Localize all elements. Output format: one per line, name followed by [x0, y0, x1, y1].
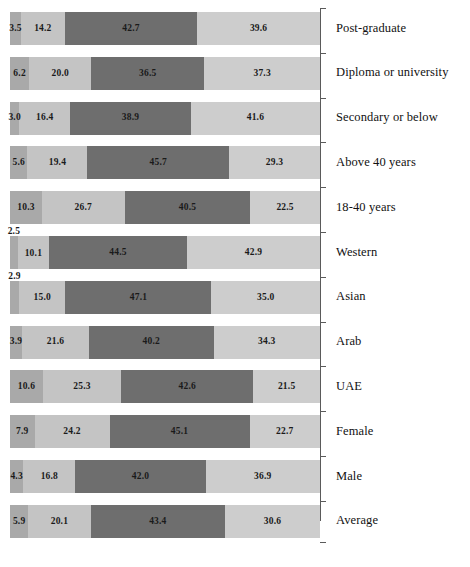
bar-segment: 6.2 [10, 57, 29, 90]
bar-segment: 15.0 [19, 281, 66, 314]
bar-segment-value: 3.0 [8, 113, 20, 123]
bar-track: 4.316.842.036.9 [10, 460, 320, 493]
stacked-bar-chart: 3.514.242.739.6Post-graduate6.220.036.53… [0, 0, 470, 567]
axis-tick [320, 322, 326, 323]
bar-segment: 45.1 [110, 415, 250, 448]
bar-segment-value: 26.7 [75, 203, 92, 213]
bar-segment-value: 14.2 [34, 24, 51, 34]
bar-segment-value: 2.9 [8, 272, 20, 282]
bar-segment: 3.9 [10, 326, 22, 359]
bar-segment: 3.5 [10, 12, 21, 45]
bar-segment-value: 20.1 [51, 517, 68, 527]
bar-segment: 10.3 [10, 191, 42, 224]
bar-row: 3.921.640.234.3 [10, 326, 320, 359]
bar-row: 3.016.438.941.6 [10, 102, 320, 135]
bar-segment-value: 2.5 [8, 227, 20, 237]
plot-area: 3.514.242.739.6Post-graduate6.220.036.53… [0, 0, 470, 567]
bar-segment: 37.3 [204, 57, 320, 90]
bar-segment: 39.6 [197, 12, 320, 45]
bar-segment-value: 4.3 [10, 472, 22, 482]
bar-segment: 30.6 [225, 505, 320, 538]
bar-segment-value: 10.1 [25, 249, 42, 259]
bar-segment-value: 36.9 [254, 472, 271, 482]
bar-segment: 7.9 [10, 415, 35, 448]
bar-segment: 14.2 [21, 12, 65, 45]
bar-segment-value: 40.5 [179, 203, 196, 213]
bar-segment-value: 15.0 [34, 293, 51, 303]
bar-segment: 25.3 [43, 370, 121, 403]
bar-segment: 20.1 [28, 505, 90, 538]
axis-tick [320, 456, 326, 457]
bar-row: 7.924.245.122.7 [10, 415, 320, 448]
bar-segment-value: 47.1 [130, 293, 147, 303]
bar-segment-value: 6.2 [13, 69, 25, 79]
bar-segment: 10.6 [10, 370, 43, 403]
bar-segment: 21.5 [253, 370, 320, 403]
bar-segment-value: 30.6 [264, 517, 281, 527]
bar-segment-value: 5.6 [12, 158, 24, 168]
bar-segment-value: 22.7 [276, 427, 293, 437]
bar-segment: 36.9 [206, 460, 320, 493]
axis-tick [320, 53, 326, 54]
bar-segment: 42.9 [187, 236, 320, 269]
category-label: Average [336, 513, 378, 528]
bar-segment-value: 29.3 [266, 158, 283, 168]
axis-tick [320, 277, 326, 278]
bar-segment-value: 20.0 [52, 69, 69, 79]
bar-segment: 35.0 [211, 281, 320, 314]
axis-tick [320, 366, 326, 367]
bar-track: 3.921.640.234.3 [10, 326, 320, 359]
category-label: Secondary or below [336, 110, 438, 125]
bar-segment: 42.7 [65, 12, 197, 45]
bar-row: 2.915.047.135.0 [10, 281, 320, 314]
bar-segment-value: 42.7 [122, 24, 139, 34]
bar-segment-value: 44.5 [109, 248, 126, 258]
bar-segment-value: 7.9 [16, 427, 28, 437]
bar-track: 7.924.245.122.7 [10, 415, 320, 448]
bar-segment-value: 19.4 [49, 158, 66, 168]
bar-segment-value: 10.3 [17, 203, 34, 213]
bar-row: 6.220.036.537.3 [10, 57, 320, 90]
bar-segment-value: 43.4 [149, 517, 166, 527]
category-label: Western [336, 245, 377, 260]
bar-track: 5.920.143.430.6 [10, 505, 320, 538]
axis-tick [320, 411, 326, 412]
category-axis-line [320, 8, 321, 521]
bar-segment-value: 5.9 [13, 517, 25, 527]
bar-row: 10.326.740.522.5 [10, 191, 320, 224]
bar-segment-value: 37.3 [253, 69, 270, 79]
bar-segment-value: 39.6 [250, 24, 267, 34]
bar-segment: 34.3 [214, 326, 320, 359]
bar-segment-value: 16.8 [41, 472, 58, 482]
bar-row: 5.920.143.430.6 [10, 505, 320, 538]
bar-segment-value: 42.9 [245, 248, 262, 258]
bar-segment: 3.0 [10, 102, 19, 135]
bar-segment: 40.2 [89, 326, 214, 359]
bar-segment: 43.4 [91, 505, 226, 538]
bar-segment: 10.1 [18, 236, 49, 269]
bar-segment: 42.6 [121, 370, 253, 403]
bar-track: 6.220.036.537.3 [10, 57, 320, 90]
category-label: UAE [336, 379, 362, 394]
bar-segment: 2.9 [10, 281, 19, 314]
bar-row: 4.316.842.036.9 [10, 460, 320, 493]
bar-row: 10.625.342.621.5 [10, 370, 320, 403]
category-label: Asian [336, 289, 366, 304]
axis-tick [320, 187, 326, 188]
category-label: Above 40 years [336, 155, 416, 170]
bar-segment: 45.7 [87, 146, 229, 179]
bar-row: 5.619.445.729.3 [10, 146, 320, 179]
bar-segment: 22.5 [250, 191, 320, 224]
bar-segment-value: 38.9 [122, 113, 139, 123]
bar-segment-value: 3.5 [9, 24, 21, 34]
bar-row: 2.510.144.542.9 [10, 236, 320, 269]
bar-segment: 21.6 [22, 326, 89, 359]
bar-segment: 19.4 [27, 146, 87, 179]
bar-segment: 40.5 [125, 191, 251, 224]
bar-segment-value: 42.0 [132, 472, 149, 482]
bar-segment-value: 45.1 [171, 427, 188, 437]
bar-segment: 44.5 [49, 236, 187, 269]
bar-segment: 20.0 [29, 57, 91, 90]
bar-segment-value: 25.3 [73, 382, 90, 392]
category-label: Post-graduate [336, 21, 406, 36]
